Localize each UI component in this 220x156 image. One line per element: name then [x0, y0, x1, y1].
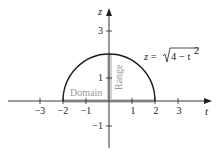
t-axis-arrow-icon	[204, 98, 212, 104]
z-axis-arrow-icon	[106, 8, 112, 16]
z-tick-label: 1	[98, 72, 103, 83]
range-label: Range	[113, 64, 124, 90]
t-tick-label: −1	[81, 105, 92, 116]
t-tick-label: 3	[177, 105, 182, 116]
z-tick-label: −1	[92, 120, 103, 131]
svg-text:4 − t: 4 − t	[171, 51, 190, 62]
svg-text:z =: z =	[143, 51, 157, 62]
t-axis-label: t	[205, 105, 209, 117]
t-tick-label: −3	[35, 105, 46, 116]
equation-label: z = 4 − t 2	[143, 45, 199, 62]
t-tick-label: 1	[131, 105, 136, 116]
t-tick-label: 2	[154, 105, 159, 116]
domain-label: Domain	[70, 87, 102, 98]
z-axis-label: z	[97, 5, 103, 17]
range-highlight	[107, 54, 112, 101]
t-tick-label: −2	[58, 105, 69, 116]
svg-text:2: 2	[194, 45, 199, 56]
function-graph: −3 −2 −1 1 2 3 3 1 −1 t z Domain Range z…	[0, 0, 220, 156]
z-tick-label: 3	[98, 25, 103, 36]
